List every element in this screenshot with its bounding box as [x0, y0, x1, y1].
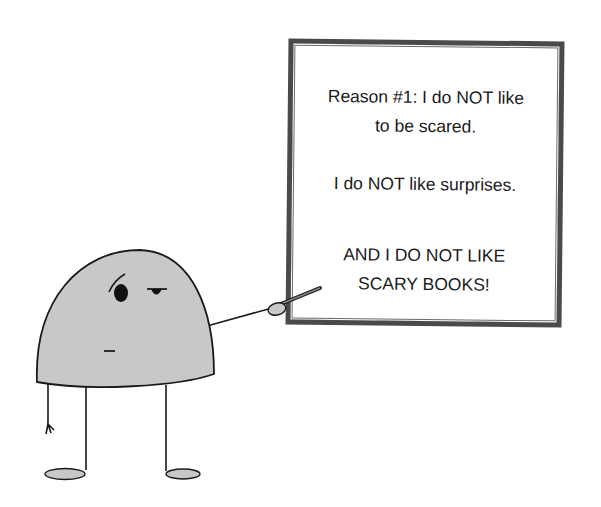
left-foot	[45, 469, 85, 480]
body-dome	[37, 250, 214, 387]
right-foot	[166, 469, 200, 479]
left-hand-icon	[46, 424, 54, 434]
illustration-scene: Reason #1: I do NOT like to be scared. I…	[0, 0, 601, 507]
arm-line	[207, 308, 272, 326]
character-figure	[0, 0, 601, 507]
left-eye-icon	[114, 284, 128, 302]
